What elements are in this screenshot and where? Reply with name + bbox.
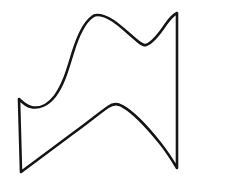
figure-canvas	[0, 0, 229, 183]
shape-outline-svg	[0, 0, 229, 183]
canvas-background	[0, 0, 229, 183]
